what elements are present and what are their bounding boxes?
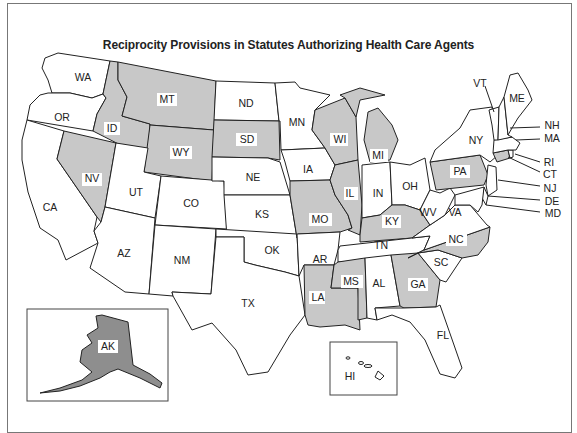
label-al: AL <box>373 277 386 289</box>
label-ak: AK <box>101 340 115 352</box>
label-la: LA <box>312 291 325 303</box>
label-ma: MA <box>544 132 560 144</box>
label-ne: NE <box>246 171 261 183</box>
label-wa: WA <box>75 71 92 83</box>
label-mt: MT <box>159 93 175 105</box>
label-or: OR <box>54 111 70 123</box>
label-wi: WI <box>334 133 347 145</box>
hawaii-inset <box>330 342 397 395</box>
label-ks: KS <box>255 208 269 220</box>
label-nh: NH <box>544 119 559 131</box>
label-oh: OH <box>402 180 418 192</box>
label-de: DE <box>545 195 560 207</box>
label-mo: MO <box>312 213 329 225</box>
label-il: IL <box>346 187 355 199</box>
label-ky: KY <box>385 215 399 227</box>
label-ok: OK <box>264 244 279 256</box>
label-ga: GA <box>410 278 425 290</box>
label-md: MD <box>545 207 562 219</box>
label-nd: ND <box>238 97 254 109</box>
state-me[interactable] <box>504 73 532 135</box>
label-me: ME <box>509 92 525 104</box>
label-tx: TX <box>241 297 254 309</box>
label-pa: PA <box>453 165 466 177</box>
label-sd: SD <box>240 133 255 145</box>
label-sc: SC <box>434 256 449 268</box>
label-ia: IA <box>303 163 313 175</box>
label-co: CO <box>183 197 199 209</box>
label-va: VA <box>448 206 461 218</box>
label-mi: MI <box>372 149 384 161</box>
label-tn: TN <box>374 239 388 251</box>
label-ar: AR <box>313 253 328 265</box>
label-nj: NJ <box>544 182 557 194</box>
label-vt: VT <box>473 77 487 89</box>
label-mn: MN <box>289 116 305 128</box>
label-in: IN <box>373 187 384 199</box>
state-nj[interactable] <box>486 165 497 196</box>
label-ut: UT <box>129 186 144 198</box>
label-ms: MS <box>343 275 359 287</box>
label-hi: HI <box>345 370 356 382</box>
label-ct: CT <box>543 168 558 180</box>
label-id: ID <box>107 122 118 134</box>
label-wv: WV <box>420 206 437 218</box>
label-ri: RI <box>544 156 555 168</box>
label-wy: WY <box>173 146 190 158</box>
label-ny: NY <box>469 134 484 146</box>
state-ny[interactable] <box>430 107 498 162</box>
label-az: AZ <box>117 247 131 259</box>
label-fl: FL <box>437 329 449 341</box>
label-nv: NV <box>85 172 100 184</box>
label-nc: NC <box>448 233 464 245</box>
label-ca: CA <box>43 201 58 213</box>
label-nm: NM <box>174 254 190 266</box>
